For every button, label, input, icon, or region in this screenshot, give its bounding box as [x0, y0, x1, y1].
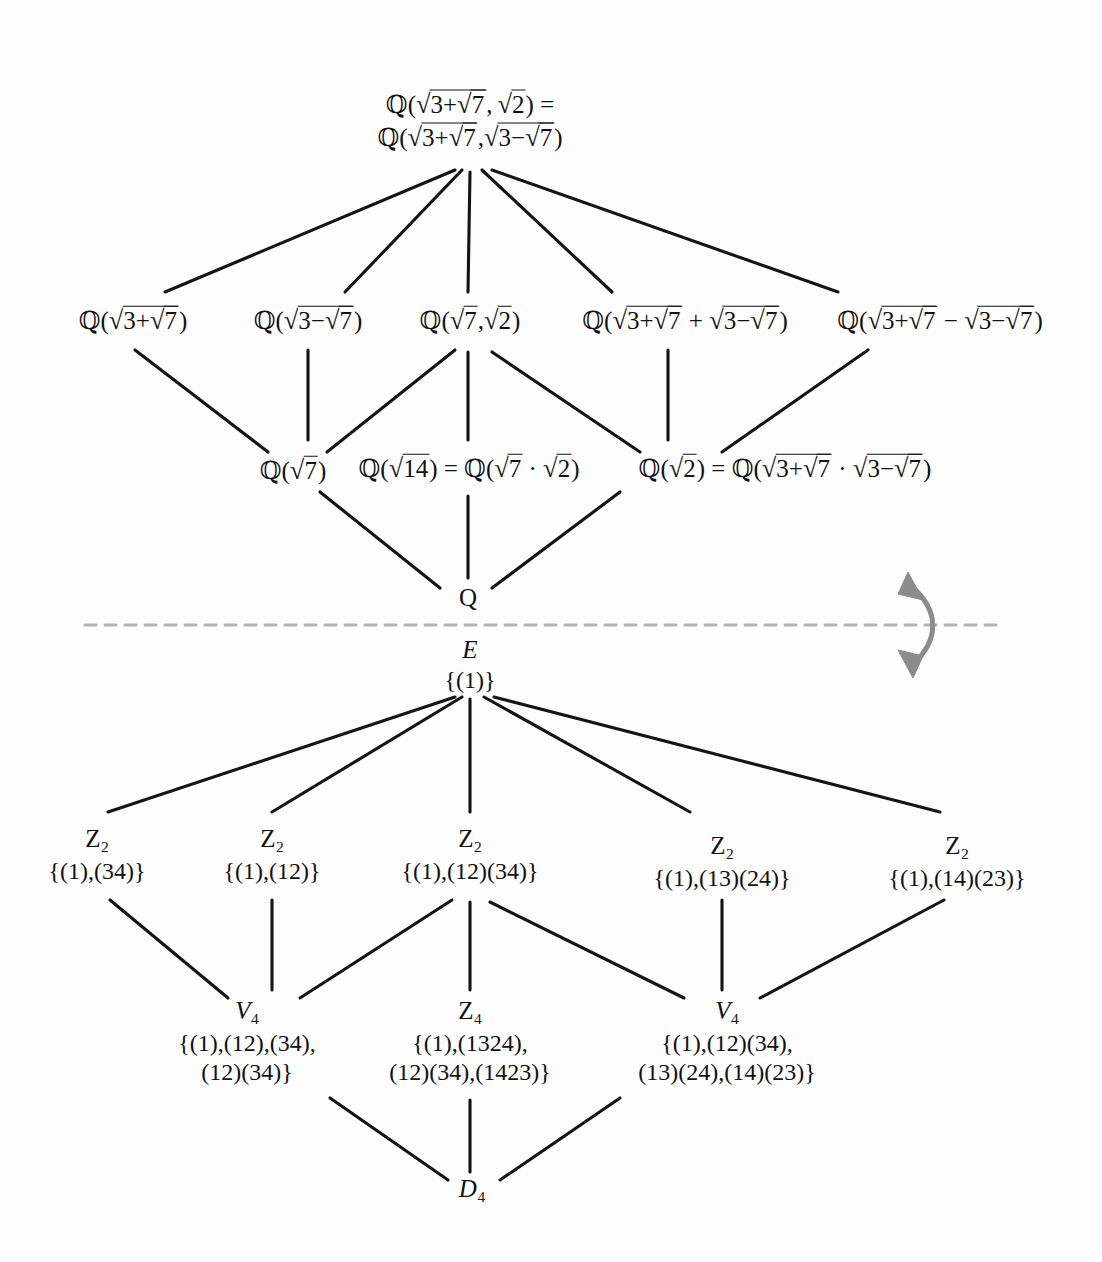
field-node-q-sqrt-3-plus-sqrt7: ℚ(√3+√7): [79, 304, 188, 337]
edge-e-to-z2-1423: [494, 697, 940, 812]
field-node-q-difference: ℚ(√3+√7 − √3−√7): [837, 304, 1042, 337]
field-node-q-sqrt2: ℚ(√2) = ℚ(√3+√7 · √3−√7): [639, 452, 932, 485]
lattice-edges: [0, 0, 1102, 1262]
group-set: {(1),(12)(34)}: [402, 857, 539, 886]
field-node-top: ℚ(√3+√7, √2) = ℚ(√3+√7,√3−√7): [377, 88, 562, 153]
q-symbol: Q: [459, 584, 477, 611]
edge-v4b-to-d4: [500, 1098, 620, 1180]
group-set-line2: (12)(34),(1423)}: [389, 1058, 550, 1087]
field-node-q-sqrt7: ℚ(√7): [260, 454, 326, 487]
group-node-identity: E {(1)}: [444, 635, 495, 695]
edge-q2-to-Q: [492, 492, 620, 588]
edge-e-to-z2-12: [272, 697, 462, 812]
field-top-line1: ℚ(√3+√7, √2) =: [377, 88, 562, 121]
group-node-z2-13-24: Z2 {(1),(13)(24)}: [654, 831, 791, 893]
group-head: Z4: [389, 996, 550, 1029]
field-node-q-sqrt7-sqrt2: ℚ(√7,√2): [420, 304, 521, 337]
group-node-z2-34: Z2 {(1),(34)}: [48, 824, 145, 886]
field-node-q-sum: ℚ(√3+√7 + √3−√7): [582, 304, 787, 337]
edge-z2-1234-to-v4a: [300, 900, 452, 998]
edge-qdiff-to-q2: [722, 350, 868, 452]
edge-v4a-to-d4: [330, 1098, 448, 1180]
group-set-line1: {(1),(1324),: [389, 1029, 550, 1058]
group-set-line2: (12)(34)}: [178, 1058, 315, 1087]
field-top-line2: ℚ(√3+√7,√3−√7): [377, 120, 562, 153]
group-head: V4: [638, 996, 815, 1029]
edge-top-to-q3minus: [345, 170, 462, 292]
group-node-z2-14-23: Z2 {(1),(14)(23)}: [889, 831, 1026, 893]
group-head: Z2: [654, 831, 791, 864]
edge-top-to-qdiff: [492, 170, 838, 292]
field-node-q-rationals: Q: [459, 583, 477, 614]
edge-q7-2-to-q7: [327, 350, 455, 452]
group-set: {(1),(14)(23)}: [889, 864, 1026, 893]
edge-e-to-z2-34: [108, 697, 455, 812]
edge-e-to-z2-1324: [484, 697, 690, 812]
group-head: Z2: [223, 824, 320, 857]
group-node-z4: Z4 {(1),(1324), (12)(34),(1423)}: [389, 996, 550, 1087]
group-top-head: E: [444, 635, 495, 666]
group-set-line2: (13)(24),(14)(23)}: [638, 1058, 815, 1087]
group-set-line1: {(1),(12),(34),: [178, 1029, 315, 1058]
edge-q3plus-to-q7: [135, 350, 268, 452]
group-node-d4: D4: [459, 1174, 485, 1207]
edge-z2-1234-to-v4b: [490, 902, 684, 998]
group-node-z2-12-34: Z2 {(1),(12)(34)}: [402, 824, 539, 886]
edge-q7-to-Q: [320, 492, 440, 588]
group-set: {(1),(13)(24)}: [654, 864, 791, 893]
edge-q7-2-to-q2: [492, 352, 640, 452]
edge-z2-1423-to-v4b: [760, 900, 944, 998]
group-set-line1: {(1),(12)(34),: [638, 1029, 815, 1058]
group-node-v4-right: V4 {(1),(12)(34), (13)(24),(14)(23)}: [638, 996, 815, 1087]
edge-z2-34-to-v4a: [110, 900, 228, 998]
edge-top-to-q7-2: [468, 172, 470, 292]
correspondence-arrow-icon: [898, 572, 933, 678]
group-node-v4-left: V4 {(1),(12),(34), (12)(34)}: [178, 996, 315, 1087]
field-node-q-sqrt-3-minus-sqrt7: ℚ(√3−√7): [254, 304, 363, 337]
galois-lattice-diagram: ℚ(√3+√7, √2) = ℚ(√3+√7,√3−√7) ℚ(√3+√7) ℚ…: [0, 0, 1102, 1262]
group-head: Z2: [402, 824, 539, 857]
field-node-q-sqrt14: ℚ(√14) = ℚ(√7 · √2): [359, 452, 580, 485]
group-top-set: {(1)}: [444, 666, 495, 695]
group-set: {(1),(12)}: [223, 857, 320, 886]
group-node-z2-12: Z2 {(1),(12)}: [223, 824, 320, 886]
group-head: Z2: [889, 831, 1026, 864]
edge-top-to-q3plus: [165, 170, 455, 292]
group-set: {(1),(34)}: [48, 857, 145, 886]
group-head: Z2: [48, 824, 145, 857]
group-head: V4: [178, 996, 315, 1029]
edge-top-to-qsum: [482, 170, 612, 292]
